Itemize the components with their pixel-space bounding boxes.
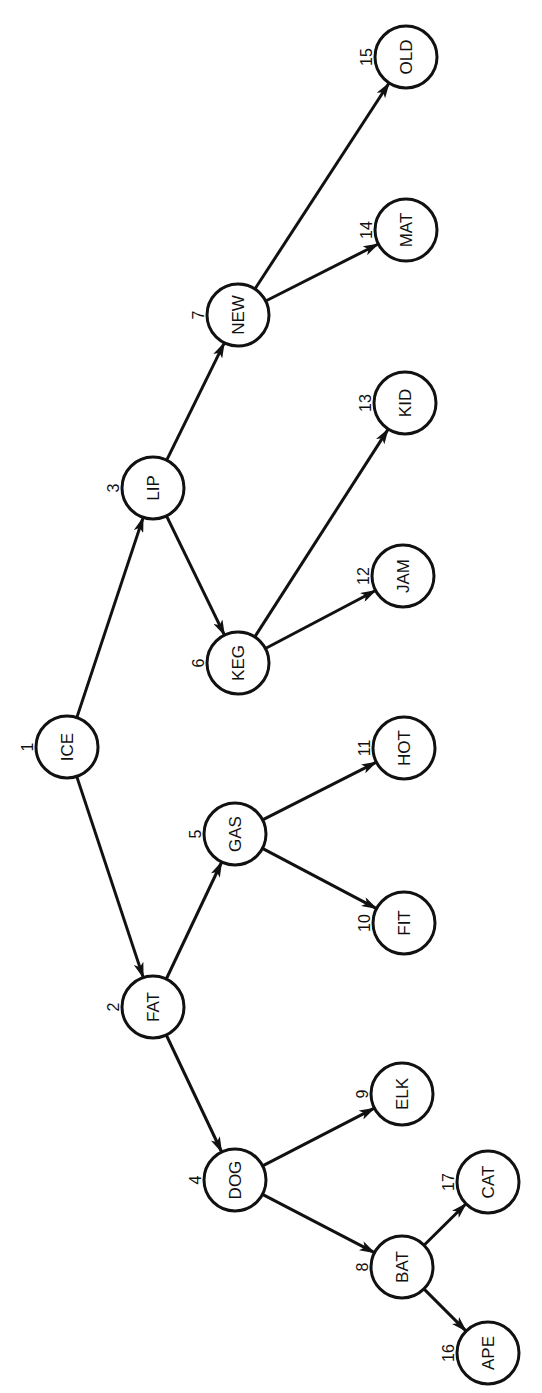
node-index-label: 15 [358,48,375,66]
tree-node-ice: ICE1 [19,716,99,778]
tree-node-old: OLD15 [358,26,438,88]
node-label: CAT [479,1166,498,1199]
node-label: ELK [393,1077,412,1110]
node-label: LIP [144,475,163,501]
node-index-label: 8 [354,1262,371,1271]
tree-node-dog: DOG4 [187,1149,267,1211]
node-label: DOG [226,1161,245,1200]
node-index-label: 16 [440,1344,457,1362]
tree-node-elk: ELK9 [354,1063,434,1125]
edge-keg-to-kid [255,429,388,637]
node-label: FAT [144,992,163,1022]
node-label: KID [396,389,415,417]
edge-new-to-mat [266,244,379,301]
node-index-label: 10 [356,914,373,932]
tree-node-kid: KID13 [357,372,437,434]
edge-gas-to-fit [262,848,376,908]
tree-diagram: ICE1FAT2LIP3DOG4GAS5KEG6NEW7BAT8ELK9FIT1… [0,0,542,1393]
tree-node-lip: LIP3 [105,457,185,519]
node-index-label: 17 [440,1173,457,1191]
node-label: FIT [395,910,414,936]
nodes-layer: ICE1FAT2LIP3DOG4GAS5KEG6NEW7BAT8ELK9FIT1… [19,26,520,1384]
tree-node-hot: HOT11 [356,717,436,779]
node-index-label: 5 [187,829,204,838]
tree-node-jam: JAM12 [355,545,435,607]
node-index-label: 1 [19,742,36,751]
tree-node-fat: FAT2 [105,976,185,1038]
edge-gas-to-hot [263,762,377,820]
node-index-label: 11 [356,740,373,757]
edge-dog-to-bat [263,1194,375,1252]
node-label: HOT [395,730,414,766]
edge-ice-to-lip [77,517,143,717]
edge-ice-to-fat [77,776,144,977]
edge-fat-to-dog [166,1035,221,1152]
node-label: JAM [394,559,413,593]
node-index-label: 12 [355,567,372,585]
edge-lip-to-new [167,343,225,460]
edge-bat-to-ape [424,1289,466,1331]
node-label: APE [479,1336,498,1370]
node-label: OLD [397,40,416,75]
edge-bat-to-cat [424,1204,466,1245]
node-label: BAT [393,1251,412,1283]
node-index-label: 6 [190,658,207,667]
tree-node-new: NEW7 [190,284,270,346]
node-index-label: 2 [105,1002,122,1011]
node-label: ICE [58,733,77,761]
tree-node-keg: KEG6 [190,632,270,694]
node-index-label: 13 [357,394,374,412]
node-index-label: 7 [190,310,207,319]
tree-node-bat: BAT8 [354,1236,434,1298]
edge-fat-to-gas [166,862,221,979]
node-label: NEW [229,295,248,335]
edge-lip-to-keg [167,516,225,635]
node-label: GAS [226,816,245,852]
tree-node-ape: APE16 [440,1322,520,1384]
node-index-label: 14 [358,221,375,239]
edges-layer [77,83,466,1331]
tree-node-gas: GAS5 [187,803,267,865]
node-index-label: 3 [105,483,122,492]
edge-dog-to-elk [263,1108,375,1166]
node-label: MAT [397,213,416,248]
node-label: KEG [229,645,248,681]
node-index-label: 9 [354,1089,371,1098]
node-index-label: 4 [187,1175,204,1184]
tree-node-fit: FIT10 [356,892,436,954]
edge-keg-to-jam [265,591,375,649]
tree-node-mat: MAT14 [358,199,438,261]
edge-new-to-old [255,83,389,289]
tree-node-cat: CAT17 [440,1151,520,1213]
